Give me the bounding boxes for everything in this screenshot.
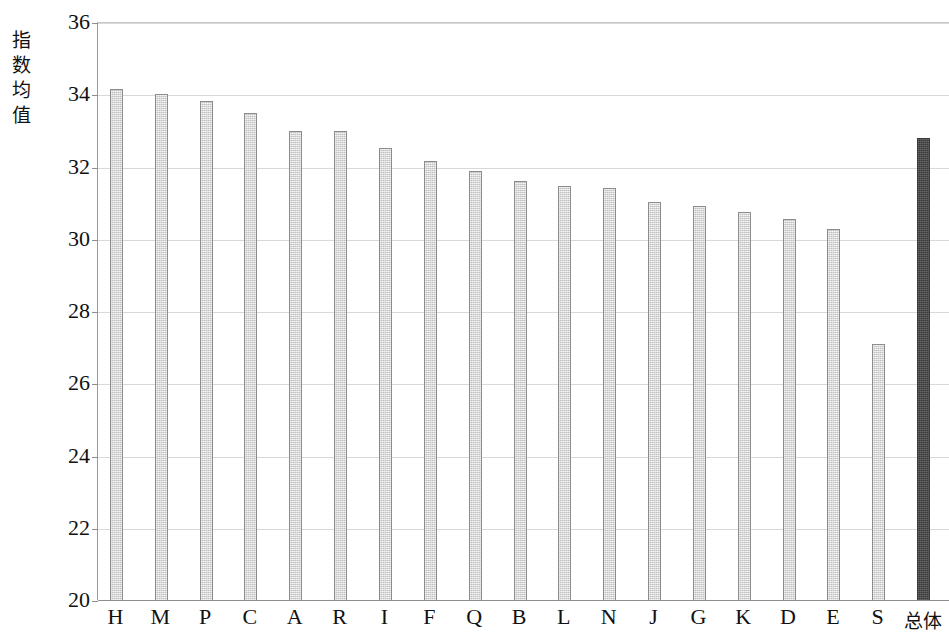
x-axis-label-C: C <box>243 604 258 630</box>
x-axis-label-K: K <box>735 604 751 630</box>
x-axis-label-G: G <box>690 604 706 630</box>
y-tick-32 <box>92 168 98 169</box>
bar-C[interactable] <box>244 113 257 600</box>
bar-L[interactable] <box>558 186 571 600</box>
bar-G[interactable] <box>693 206 706 600</box>
bar-P[interactable] <box>200 101 213 600</box>
y-axis-tick-labels: 202224262830323436 <box>22 22 90 600</box>
bar-B[interactable] <box>514 181 527 600</box>
x-axis-label-Q: Q <box>466 604 482 630</box>
bar-H[interactable] <box>110 89 123 600</box>
x-axis-category-labels: HMPCARIFQBLNJGKDES总体 <box>97 602 949 635</box>
y-axis-label-30: 30 <box>30 226 90 252</box>
bar-S[interactable] <box>872 344 885 600</box>
bar-chart-figure: 指数均值 202224262830323436 HMPCARIFQBLNJGKD… <box>0 0 949 635</box>
bar-I[interactable] <box>379 148 392 600</box>
bar-J[interactable] <box>648 202 661 600</box>
y-tick-24 <box>92 457 98 458</box>
x-axis-label-H: H <box>107 604 123 630</box>
y-tick-26 <box>92 384 98 385</box>
x-axis-label-M: M <box>150 604 170 630</box>
bar-K[interactable] <box>738 212 751 600</box>
gridline-34 <box>98 95 949 96</box>
x-axis-label-总体: 总体 <box>904 606 942 633</box>
x-axis-label-B: B <box>512 604 527 630</box>
bar-A[interactable] <box>289 131 302 600</box>
y-axis-label-28: 28 <box>30 298 90 324</box>
x-axis-label-A: A <box>287 604 303 630</box>
bar-R[interactable] <box>334 131 347 600</box>
y-axis-label-20: 20 <box>30 587 90 613</box>
gridline-32 <box>98 168 949 169</box>
x-axis-label-N: N <box>601 604 617 630</box>
y-axis-label-36: 36 <box>30 9 90 35</box>
gridline-36 <box>98 23 949 24</box>
bar-Q[interactable] <box>469 171 482 600</box>
bar-D[interactable] <box>783 219 796 600</box>
bar-总体[interactable] <box>917 138 930 600</box>
y-axis-label-24: 24 <box>30 443 90 469</box>
plot-inner <box>98 23 949 600</box>
x-axis-label-E: E <box>826 604 839 630</box>
y-axis-label-22: 22 <box>30 515 90 541</box>
x-axis-label-I: I <box>381 604 388 630</box>
plot-area <box>97 22 949 600</box>
y-axis-label-26: 26 <box>30 370 90 396</box>
bar-M[interactable] <box>155 94 168 600</box>
x-axis-label-P: P <box>199 604 211 630</box>
y-axis-label-32: 32 <box>30 154 90 180</box>
y-tick-28 <box>92 312 98 313</box>
x-axis-label-J: J <box>649 604 658 630</box>
y-axis-label-34: 34 <box>30 81 90 107</box>
x-axis-label-F: F <box>423 604 435 630</box>
bar-E[interactable] <box>827 229 840 600</box>
x-axis-label-S: S <box>872 604 884 630</box>
x-axis-label-R: R <box>332 604 347 630</box>
y-tick-36 <box>92 23 98 24</box>
y-tick-34 <box>92 95 98 96</box>
y-tick-30 <box>92 240 98 241</box>
y-tick-22 <box>92 529 98 530</box>
x-axis-label-L: L <box>557 604 570 630</box>
x-axis-label-D: D <box>780 604 796 630</box>
bar-F[interactable] <box>424 161 437 600</box>
bar-N[interactable] <box>603 188 616 600</box>
